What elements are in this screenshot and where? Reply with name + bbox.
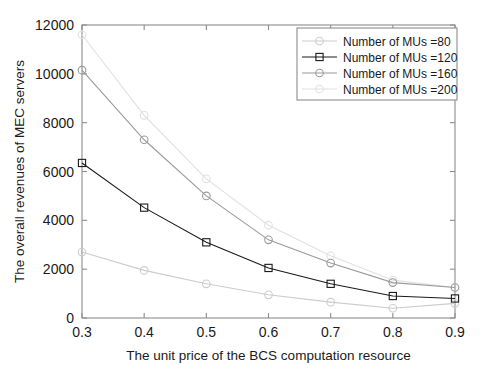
x-axis-title: The unit price of the BCS computation re…: [126, 348, 410, 363]
chart-legend: Number of MUs =80Number of MUs =120Numbe…: [297, 28, 458, 100]
y-tick-label: 8000: [43, 115, 74, 131]
x-tick-label: 0.8: [383, 324, 403, 340]
series-line-0: [82, 252, 455, 308]
x-tick-label: 0.9: [445, 324, 465, 340]
y-axis-title: The overall revenues of MEC servers: [12, 60, 27, 283]
y-tick-label: 4000: [43, 212, 74, 228]
legend-label-1: Number of MUs =120: [343, 51, 458, 65]
chart-figure: Number of MUs =80Number of MUs =120Numbe…: [0, 0, 482, 387]
series-line-2: [82, 70, 455, 287]
y-tick-label: 12000: [35, 17, 74, 33]
line-chart: Number of MUs =80Number of MUs =120Numbe…: [0, 0, 482, 387]
legend-label-2: Number of MUs =160: [343, 67, 458, 81]
x-tick-label: 0.7: [321, 324, 341, 340]
x-tick-label: 0.6: [259, 324, 279, 340]
x-tick-label: 0.4: [134, 324, 154, 340]
legend-label-0: Number of MUs =80: [343, 35, 451, 49]
legend-label-3: Number of MUs =200: [343, 83, 458, 97]
y-tick-label: 0: [66, 310, 74, 326]
x-tick-label: 0.5: [197, 324, 217, 340]
y-tick-label: 2000: [43, 261, 74, 277]
y-tick-label: 10000: [35, 66, 74, 82]
series-line-1: [82, 163, 455, 299]
x-tick-label: 0.3: [72, 324, 92, 340]
y-tick-label: 6000: [43, 164, 74, 180]
